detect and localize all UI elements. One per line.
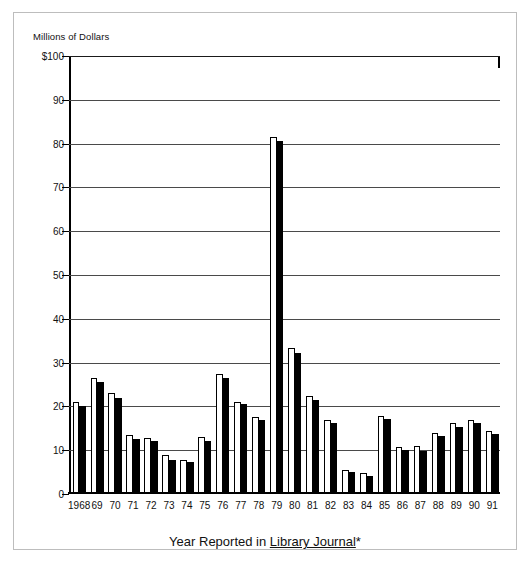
bar-90-white: [468, 420, 475, 494]
bar-76-white: [216, 374, 223, 494]
bar-87-black: [420, 451, 427, 494]
bar-79-white: [270, 137, 277, 494]
x-tick-label-78: 78: [253, 500, 264, 511]
x-tick-label-76: 76: [217, 500, 228, 511]
bar-89-black: [456, 427, 463, 494]
x-axis-title-journal: Library Journal: [270, 534, 356, 549]
bar-1968-black: [79, 406, 86, 494]
y-tick-60: [62, 231, 69, 232]
x-tick-label-86: 86: [397, 500, 408, 511]
x-tick-label-73: 73: [163, 500, 174, 511]
bar-group-75: [198, 56, 211, 494]
y-tick-10: [62, 450, 69, 451]
bar-1968-white: [73, 402, 80, 494]
x-axis-tick-labels: 1968697071727374757677787980818283848586…: [69, 500, 500, 516]
bar-79-black: [277, 141, 284, 494]
y-tick-20: [62, 406, 69, 407]
bar-80-black: [295, 353, 302, 494]
bar-75-black: [205, 441, 212, 494]
bar-74-white: [180, 460, 187, 494]
bar-78-white: [252, 417, 259, 494]
x-tick-label-90: 90: [469, 500, 480, 511]
bar-81-black: [313, 400, 320, 494]
bar-89-white: [450, 423, 457, 494]
bar-78-black: [259, 420, 266, 494]
bar-group-1968: [73, 56, 86, 494]
y-axis-caption: Millions of Dollars: [33, 31, 109, 42]
bar-91-white: [486, 431, 493, 494]
x-tick-label-80: 80: [289, 500, 300, 511]
bar-81-white: [306, 396, 313, 494]
x-tick-label-72: 72: [145, 500, 156, 511]
y-tick-50: [62, 275, 69, 276]
bar-76-black: [223, 378, 230, 494]
y-tick-90: [62, 100, 69, 101]
bar-87-white: [414, 446, 421, 494]
bar-82-white: [324, 420, 331, 494]
x-tick-label-91: 91: [487, 500, 498, 511]
bar-group-84: [360, 56, 373, 494]
bar-group-90: [468, 56, 481, 494]
bar-group-79: [270, 56, 283, 494]
bar-73-white: [162, 455, 169, 494]
bar-group-91: [486, 56, 499, 494]
bar-group-69: [91, 56, 104, 494]
bar-group-77: [234, 56, 247, 494]
x-tick-label-74: 74: [181, 500, 192, 511]
bar-group-71: [126, 56, 139, 494]
x-tick-label-88: 88: [433, 500, 444, 511]
bar-group-86: [396, 56, 409, 494]
x-tick-label-83: 83: [343, 500, 354, 511]
x-tick-label-69: 69: [92, 500, 103, 511]
bar-72-black: [151, 441, 158, 494]
bar-75-white: [198, 437, 205, 494]
bar-88-white: [432, 433, 439, 494]
bar-group-89: [450, 56, 463, 494]
y-axis-tick-labels: 0102030405060708090$100: [14, 56, 64, 494]
bar-group-70: [108, 56, 121, 494]
x-axis-title: Year Reported in Library Journal*: [14, 534, 516, 549]
x-tick-label-79: 79: [271, 500, 282, 511]
bar-69-white: [91, 378, 98, 494]
bar-77-white: [234, 402, 241, 494]
bar-group-88: [432, 56, 445, 494]
x-tick-label-77: 77: [235, 500, 246, 511]
x-tick-label-70: 70: [110, 500, 121, 511]
figure-frame: Millions of Dollars 0102030405060708090$…: [13, 12, 517, 550]
bar-73-black: [169, 460, 176, 494]
bar-86-black: [402, 450, 409, 494]
x-tick-label-82: 82: [325, 500, 336, 511]
bar-group-72: [144, 56, 157, 494]
x-tick-label-84: 84: [361, 500, 372, 511]
bar-69-black: [97, 382, 104, 494]
bar-71-black: [133, 439, 140, 494]
bar-71-white: [126, 435, 133, 494]
bar-83-black: [349, 472, 356, 494]
bar-77-black: [241, 404, 248, 494]
bar-group-78: [252, 56, 265, 494]
bar-82-black: [331, 423, 338, 494]
x-tick-label-75: 75: [199, 500, 210, 511]
bar-74-black: [187, 462, 194, 494]
bar-70-black: [115, 398, 122, 494]
bar-group-83: [342, 56, 355, 494]
y-tick-label-100: $100: [42, 51, 64, 62]
bar-group-81: [306, 56, 319, 494]
bar-86-white: [396, 447, 403, 494]
bar-group-80: [288, 56, 301, 494]
bar-group-76: [216, 56, 229, 494]
y-tick-100: [62, 56, 69, 57]
y-tick-0: [62, 494, 69, 495]
bar-70-white: [108, 393, 115, 494]
bar-group-87: [414, 56, 427, 494]
bar-85-white: [378, 416, 385, 494]
bar-series-container: [69, 56, 500, 494]
bar-group-73: [162, 56, 175, 494]
x-axis-title-prefix: Year Reported in: [169, 534, 270, 549]
bar-90-black: [474, 423, 481, 494]
bar-84-white: [360, 473, 367, 494]
y-tick-40: [62, 319, 69, 320]
bar-85-black: [384, 419, 391, 494]
y-tick-80: [62, 144, 69, 145]
bar-72-white: [144, 438, 151, 494]
